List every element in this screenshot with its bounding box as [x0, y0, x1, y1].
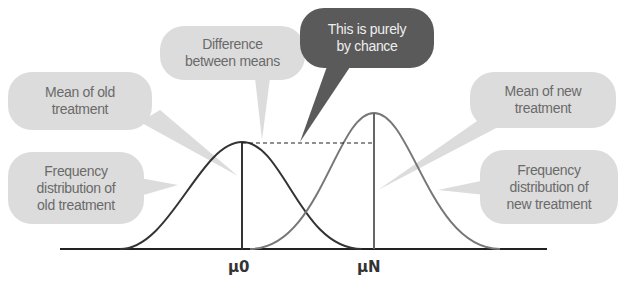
callout-mean-new: Mean of newtreatment — [470, 72, 616, 128]
callout-line: by chance — [328, 38, 406, 55]
mu-old-label: μ0 — [228, 258, 249, 276]
callout-line: This is purely — [328, 21, 406, 38]
mu-new-label: μN — [357, 258, 381, 276]
callout-line: distribution of — [507, 179, 592, 196]
callout-line: old treatment — [37, 197, 116, 214]
freq-old-tail — [140, 178, 178, 196]
callout-line: Mean of new — [505, 83, 582, 100]
callout-line: Frequency — [507, 162, 592, 179]
callout-line: new treatment — [507, 196, 592, 213]
callout-line: distribution of — [37, 180, 116, 197]
callout-chance: This is purelyby chance — [300, 8, 434, 68]
callout-difference: Differencebetween means — [160, 26, 305, 80]
callout-line: Mean of old — [45, 84, 115, 101]
callout-line: treatment — [45, 101, 115, 118]
chance-tail — [300, 58, 356, 142]
mean-old-tail — [140, 110, 238, 176]
callout-line: between means — [185, 53, 280, 70]
callout-freq-new: Frequencydistribution ofnew treatment — [480, 150, 618, 224]
callout-line: Difference — [185, 36, 280, 53]
callout-line: Frequency — [37, 163, 116, 180]
callout-freq-old: Frequencydistribution ofold treatment — [8, 152, 144, 224]
callout-mean-old: Mean of oldtreatment — [8, 72, 152, 130]
callout-line: treatment — [505, 100, 582, 117]
difference-tail — [255, 78, 270, 140]
